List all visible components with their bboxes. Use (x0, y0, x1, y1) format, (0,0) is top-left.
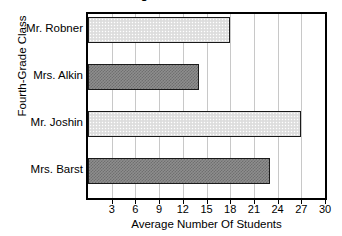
gridline (278, 14, 279, 198)
gridline (301, 14, 302, 198)
y-axis-tick-label: Mr. Joshin (1, 116, 83, 128)
x-axis-tick-label: 6 (123, 203, 147, 215)
x-axis-tick-label: 30 (313, 203, 337, 215)
x-axis-tick-label: 27 (289, 203, 313, 215)
bar (88, 111, 301, 137)
x-axis-tick-label: 21 (242, 203, 266, 215)
plot-area (86, 12, 327, 200)
bar (88, 17, 230, 43)
plot-inner (88, 14, 325, 198)
y-axis-tick-label: Mrs. Alkin (1, 69, 83, 81)
chart-title: Number of Young Athletes Across The Year (0, 0, 342, 1)
x-axis-ticks: 36912151821242730 (86, 200, 327, 216)
x-axis-tick-label: 18 (218, 203, 242, 215)
x-axis-tick-label: 15 (195, 203, 219, 215)
bar (88, 158, 270, 184)
x-axis-tick-label: 24 (266, 203, 290, 215)
y-axis-tick-labels: Mr. RobnerMrs. AlkinMr. JoshinMrs. Barst (0, 12, 83, 200)
x-axis-tick-label: 9 (147, 203, 171, 215)
y-axis-tick-label: Mrs. Barst (1, 163, 83, 175)
bar (88, 64, 199, 90)
y-axis-tick-label: Mr. Robner (1, 22, 83, 34)
x-axis-title: Average Number Of Students (86, 218, 327, 230)
bar-chart: Number of Young Athletes Across The Year… (0, 0, 342, 236)
x-axis-tick-label: 3 (100, 203, 124, 215)
x-axis-tick-label: 12 (171, 203, 195, 215)
